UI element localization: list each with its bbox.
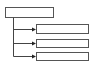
arrowhead-icon [32,42,36,46]
arrowhead-icon [32,55,36,59]
child-node-2 [14,40,89,48]
child-node-1 [14,25,89,34]
tree-diagram [0,0,97,68]
arrowhead-icon [32,28,36,32]
child-node-3 [14,53,89,61]
root-node [6,8,54,18]
